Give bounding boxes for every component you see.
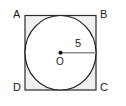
vertex-label-d: D — [13, 82, 21, 93]
geometry-figure: A B C D O 5 — [0, 0, 126, 106]
circle-center-label: O — [56, 57, 64, 67]
center-point-dot — [58, 51, 62, 55]
vertex-label-a: A — [13, 9, 20, 20]
radius-measure-label: 5 — [75, 38, 81, 49]
vertex-label-b: B — [100, 9, 107, 20]
vertex-label-c: C — [100, 82, 108, 93]
